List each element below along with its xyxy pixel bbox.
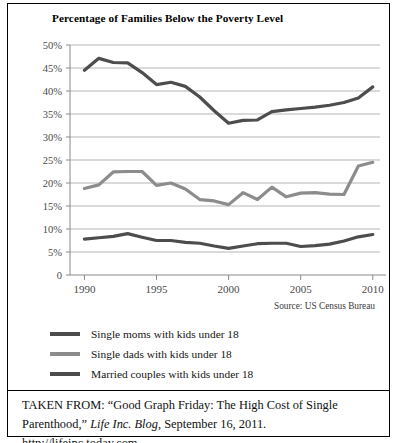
y-tick-label: 5%	[48, 247, 62, 258]
x-axis-tick-labels: 19901995200020052010	[73, 283, 384, 295]
caption-divider	[8, 390, 389, 391]
source-note: Source: US Census Bureau	[274, 301, 375, 311]
x-tick-label: 2010	[362, 283, 385, 295]
y-tick-label: 25%	[43, 155, 63, 166]
y-tick-label: 20%	[43, 178, 63, 189]
x-tick-label: 1990	[73, 283, 96, 295]
x-tick-label: 1995	[146, 283, 169, 295]
figure-frame: Percentage of Families Below the Poverty…	[7, 3, 390, 437]
x-tick-label: 2000	[218, 283, 241, 295]
legend-item: Single dads with kids under 18	[8, 344, 389, 364]
y-axis	[66, 45, 70, 275]
y-tick-label: 10%	[43, 224, 63, 235]
y-tick-label: 45%	[43, 63, 63, 74]
y-tick-label: 40%	[43, 86, 63, 97]
x-axis	[70, 275, 386, 280]
legend-label-single-moms: Single moms with kids under 18	[91, 328, 239, 340]
y-tick-label: 35%	[43, 109, 63, 120]
legend-item: Single moms with kids under 18	[8, 324, 389, 344]
legend-swatch-single-moms	[50, 332, 80, 336]
gridlines	[70, 45, 380, 252]
y-tick-label: 0	[57, 270, 62, 281]
line-chart-plot: 05%10%15%20%25%30%35%40%45%50% 199019952…	[8, 4, 389, 304]
legend-item: Married couples with kids under 18	[8, 364, 389, 384]
series-lines	[84, 58, 372, 248]
legend-label-married-couples: Married couples with kids under 18	[91, 368, 253, 380]
y-tick-label: 50%	[43, 40, 63, 51]
y-tick-label: 15%	[43, 201, 63, 212]
chart-container: Percentage of Families Below the Poverty…	[8, 4, 389, 320]
legend-label-single-dads: Single dads with kids under 18	[91, 348, 232, 360]
figure-caption: TAKEN FROM: “Good Graph Friday: The High…	[22, 396, 378, 443]
caption-italic-title: Life Inc. Blog	[90, 417, 158, 431]
x-tick-label: 2005	[290, 283, 313, 295]
series-line	[84, 234, 372, 249]
legend-swatch-single-dads	[50, 352, 80, 356]
legend-swatch-married-couples	[50, 372, 80, 376]
y-tick-label: 30%	[43, 132, 63, 143]
chart-legend: Single moms with kids under 18 Single da…	[8, 324, 389, 384]
y-axis-tick-labels: 05%10%15%20%25%30%35%40%45%50%	[43, 40, 63, 281]
